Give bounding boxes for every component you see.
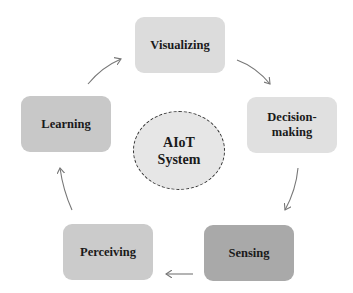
node-label: Visualizing bbox=[150, 38, 209, 53]
arrow-learning-to-visualizing bbox=[88, 59, 121, 84]
arrow-perceiving-to-learning bbox=[60, 168, 72, 210]
node-perceiving: Perceiving bbox=[63, 224, 153, 280]
node-visualizing: Visualizing bbox=[135, 17, 225, 73]
node-label: Learning bbox=[41, 117, 90, 132]
center-aiot-system: AIoT System bbox=[133, 111, 225, 190]
node-label: Perceiving bbox=[80, 245, 136, 260]
node-learning: Learning bbox=[21, 96, 111, 152]
node-label: Sensing bbox=[229, 246, 270, 261]
aiot-cycle-diagram: Visualizing Decision- making Sensing Per… bbox=[0, 0, 353, 293]
node-sensing: Sensing bbox=[204, 225, 294, 281]
node-label: Decision- making bbox=[267, 110, 316, 140]
arrow-visualizing-to-decision-making bbox=[237, 60, 270, 84]
node-decision-making: Decision- making bbox=[247, 97, 337, 153]
arrow-decision-making-to-sensing bbox=[285, 168, 298, 210]
center-label: AIoT System bbox=[158, 134, 201, 168]
